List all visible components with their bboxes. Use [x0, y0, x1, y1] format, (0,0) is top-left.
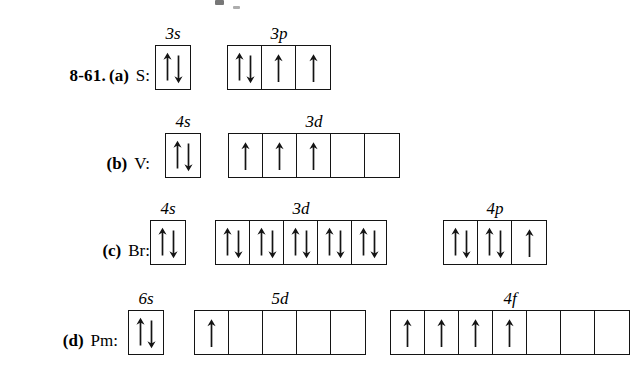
orbital-box	[331, 311, 365, 354]
problem-number: 8-61.	[70, 66, 106, 85]
paired-electrons	[151, 221, 185, 264]
spin-down	[335, 229, 346, 259]
spin-down-arrow-icon	[146, 319, 157, 349]
species-symbol: Pm:	[91, 331, 118, 350]
spin-up-arrow-icon	[358, 226, 369, 256]
spin-up	[470, 318, 481, 348]
row-label: (d)Pm:	[60, 331, 118, 351]
spin-up	[450, 226, 461, 256]
spin-down	[173, 54, 184, 84]
orbital-box-set	[155, 45, 191, 90]
spin-down	[267, 229, 278, 259]
orbital-box	[561, 311, 595, 354]
orbital-label: 4s	[165, 113, 201, 131]
orbital-box	[512, 221, 546, 264]
spin-up-arrow-icon	[172, 139, 183, 169]
paired-electrons	[228, 46, 261, 89]
orbital-group-4f: 4f	[390, 290, 630, 355]
spin-up	[290, 226, 301, 256]
spin-up	[256, 226, 267, 256]
part-letter: (b)	[106, 154, 127, 173]
spin-up	[222, 226, 233, 256]
orbital-box	[151, 221, 185, 264]
spin-down-arrow-icon	[267, 229, 278, 259]
spin-up	[135, 316, 146, 346]
orbital-label: 3s	[155, 25, 191, 43]
spin-down-arrow-icon	[301, 229, 312, 259]
orbital-box	[493, 311, 527, 354]
paired-electrons	[250, 221, 283, 264]
orbital-row-c: (c)Br:4s3d4p	[0, 175, 622, 267]
orbital-group-4s: 4s	[150, 200, 186, 265]
spin-up	[436, 318, 447, 348]
orbital-box	[478, 221, 512, 264]
orbital-row-d: (d)Pm:6s5d4f	[0, 265, 622, 357]
paired-electrons	[352, 221, 386, 264]
species-symbol: S:	[136, 66, 150, 85]
spin-up-arrow-icon	[240, 141, 251, 171]
spin-up	[308, 141, 319, 171]
paired-electrons	[216, 221, 249, 264]
row-label: (b)V:	[103, 154, 150, 174]
spin-up-arrow-icon	[524, 228, 535, 258]
orbital-group-4p: 4p	[443, 200, 547, 265]
orbital-label: 3d	[215, 200, 387, 218]
spin-up	[240, 141, 251, 171]
orbital-box	[228, 46, 262, 89]
spin-up-arrow-icon	[135, 316, 146, 346]
spin-down	[461, 229, 472, 259]
orbital-box	[297, 311, 331, 354]
spin-up-arrow-icon	[484, 226, 495, 256]
single-electron	[512, 221, 546, 264]
orbital-box	[250, 221, 284, 264]
orbital-box	[425, 311, 459, 354]
orbital-label: 5d	[194, 290, 366, 308]
row-label: (c)Br:	[99, 241, 150, 261]
spin-up	[358, 226, 369, 256]
paired-electrons	[284, 221, 317, 264]
spin-up	[402, 318, 413, 348]
orbital-box-set	[443, 220, 547, 265]
paired-electrons	[318, 221, 351, 264]
single-electron	[391, 311, 424, 354]
spin-up-arrow-icon	[504, 318, 515, 348]
spin-down-arrow-icon	[233, 229, 244, 259]
part-letter: (a)	[109, 66, 129, 85]
orbital-box	[459, 311, 493, 354]
spin-up	[504, 318, 515, 348]
spin-up-arrow-icon	[157, 226, 168, 256]
orbital-group-3p: 3p	[227, 25, 331, 90]
orbital-box	[444, 221, 478, 264]
orbital-box	[195, 311, 229, 354]
orbital-box	[284, 221, 318, 264]
orbital-box-set	[228, 133, 400, 178]
orbital-box	[166, 134, 200, 177]
orbital-box	[365, 134, 399, 177]
spin-up	[524, 228, 535, 258]
orbital-label: 3d	[228, 113, 400, 131]
spin-up-arrow-icon	[324, 226, 335, 256]
orbital-box	[296, 46, 330, 89]
orbital-box	[595, 311, 629, 354]
orbital-box	[129, 311, 163, 354]
spin-up-arrow-icon	[256, 226, 267, 256]
spin-down-arrow-icon	[335, 229, 346, 259]
spin-up	[172, 139, 183, 169]
species-symbol: Br:	[128, 241, 150, 260]
spin-up	[206, 318, 217, 348]
orbital-box-set	[215, 220, 387, 265]
single-electron	[229, 134, 262, 177]
orbital-label: 3p	[227, 25, 331, 43]
orbital-box	[229, 311, 263, 354]
orbital-box-set	[227, 45, 331, 90]
orbital-box	[229, 134, 263, 177]
spin-up-arrow-icon	[308, 141, 319, 171]
spin-up-arrow-icon	[436, 318, 447, 348]
spin-up	[308, 53, 319, 83]
spin-up-arrow-icon	[470, 318, 481, 348]
spin-up	[324, 226, 335, 256]
orbital-box-set	[390, 310, 630, 355]
orbital-box	[263, 311, 297, 354]
spin-up-arrow-icon	[402, 318, 413, 348]
single-electron	[296, 46, 330, 89]
